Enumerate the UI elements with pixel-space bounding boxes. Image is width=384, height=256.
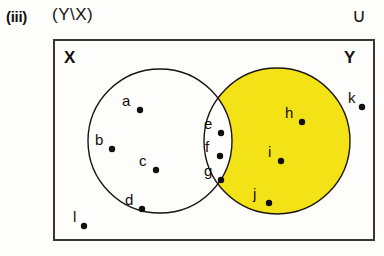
element-label: a xyxy=(122,92,131,109)
element-label: l xyxy=(73,208,76,225)
set-y-label: Y xyxy=(344,48,356,67)
element-label: h xyxy=(285,104,293,121)
element-label: b xyxy=(95,131,103,148)
element-label: c xyxy=(139,152,147,169)
element-dot xyxy=(217,153,223,159)
element-dot xyxy=(278,158,284,164)
shaded-region-y-minus-x xyxy=(0,0,384,256)
set-x-label: X xyxy=(64,48,76,67)
element-dot xyxy=(218,177,224,183)
venn-diagram: X Y abcdefghijkl xyxy=(0,0,384,256)
element-dot xyxy=(139,206,145,212)
element-label: i xyxy=(268,143,271,160)
element-dot xyxy=(81,223,87,229)
element-dot xyxy=(137,107,143,113)
element-dot xyxy=(218,130,224,136)
element-label: e xyxy=(204,115,212,132)
element-dot xyxy=(359,104,365,110)
element-label: d xyxy=(125,191,133,208)
element-dot xyxy=(109,146,115,152)
element-dot xyxy=(153,167,159,173)
element-label: g xyxy=(204,162,212,179)
element-dot xyxy=(299,119,305,125)
element-label: k xyxy=(348,89,356,106)
element-dot xyxy=(266,200,272,206)
element-label: j xyxy=(252,185,256,202)
venn-diagram-page: (iii) (Y\X) ∪ X Y abcdefghijkl xyxy=(0,0,384,256)
